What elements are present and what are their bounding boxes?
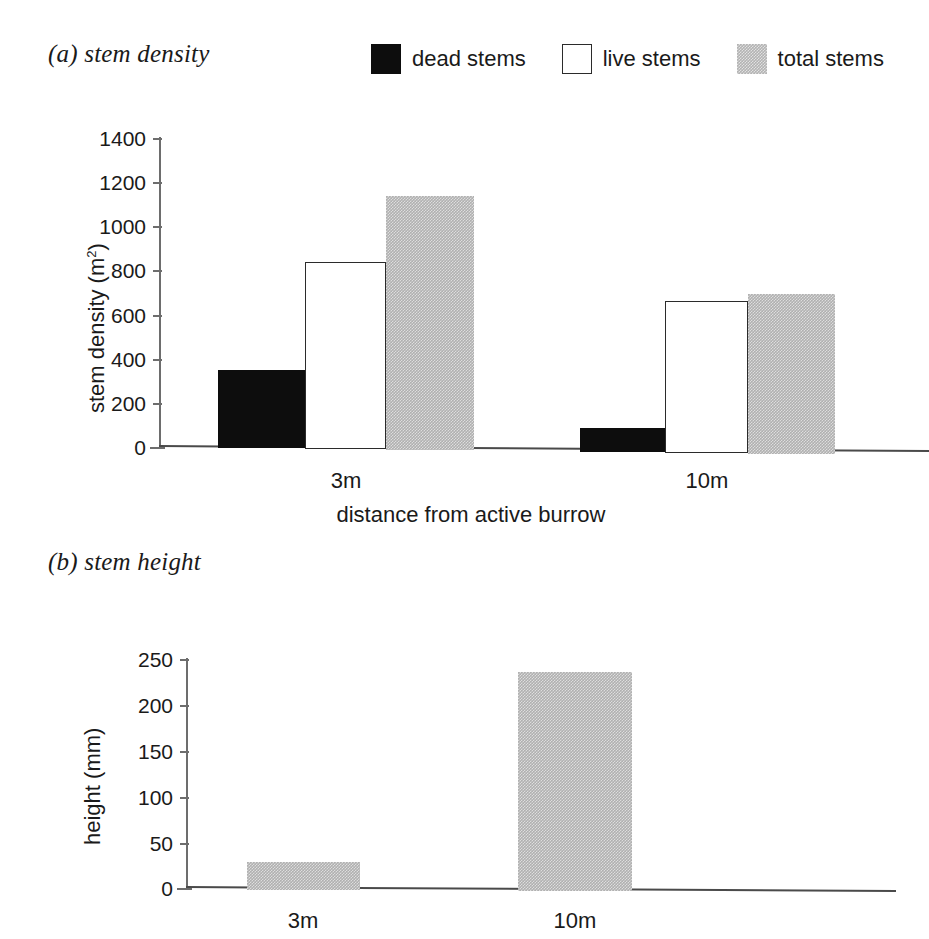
y-tick-label-b-150: 150 [95,740,173,764]
y-tick-b-100 [180,797,189,799]
y-tick-b-0 [177,888,192,890]
y-axis-line-b [186,658,188,890]
y-tick-b-50 [180,843,189,845]
bar-height-10m [518,672,632,891]
y-tick-b-250 [180,659,189,661]
y-tick-b-150 [180,751,189,753]
y-tick-label-b-250: 250 [95,648,173,672]
y-tick-b-200 [180,705,189,707]
y-tick-label-b-100: 100 [95,786,173,810]
y-tick-label-b-0: 0 [95,877,173,901]
bar-height-3m [247,862,360,890]
x-category-label-b-10m: 10m [515,908,635,934]
y-tick-label-b-200: 200 [95,694,173,718]
y-tick-label-b-50: 50 [95,832,173,856]
x-category-label-b-3m: 3m [243,908,363,934]
